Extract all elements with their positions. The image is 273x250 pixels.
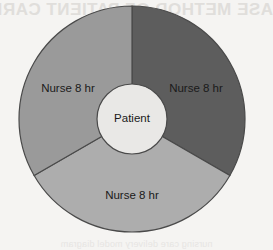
center-hub-label: Patient — [114, 112, 151, 124]
slice-label-left: Nurse 8 hr — [41, 82, 95, 94]
donut-chart: Nurse 8 hr Nurse 8 hr Nurse 8 hr Patient — [0, 0, 273, 250]
slice-label-bottom: Nurse 8 hr — [105, 189, 159, 201]
slice-label-right: Nurse 8 hr — [169, 82, 223, 94]
chart-canvas: ASE METHOD OF PATIENT CARE Nurse 8 hr Nu… — [0, 0, 273, 250]
